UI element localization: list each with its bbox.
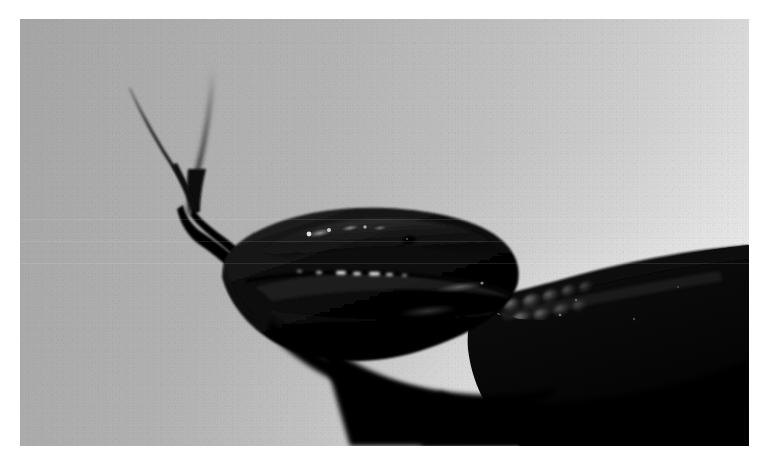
page-margin-top [0,0,768,19]
page-margin-bottom [0,446,768,465]
snake-artwork [20,19,749,446]
snake-tongue [130,69,256,273]
photo-page: Black snake head with forked tongue exte… [0,0,768,465]
page-margin-right [749,0,768,465]
page-margin-left [0,0,20,465]
photograph-plate [20,19,749,446]
